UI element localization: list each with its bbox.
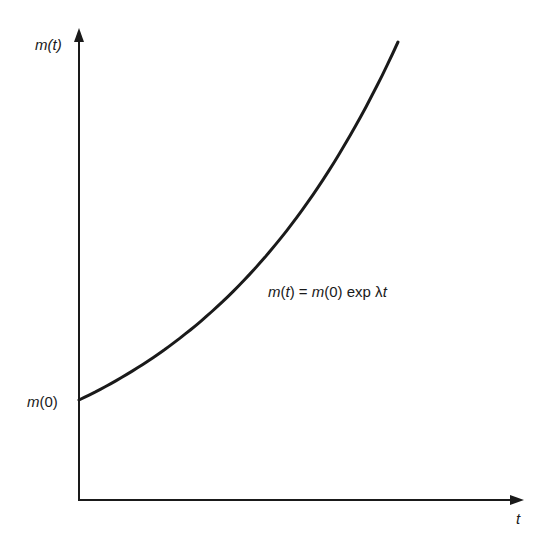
y-axis-label: m(t) [35, 36, 62, 53]
equation-label: m(t) = m(0) exp λt [268, 283, 388, 300]
y-axis-arrowhead-icon [74, 28, 84, 42]
exponential-curve [79, 42, 398, 400]
x-axis-arrowhead-icon [510, 495, 524, 505]
growth-curve [79, 42, 398, 400]
exponential-growth-figure: m(t) t m(0) m(t) = m(0) exp λt [0, 0, 552, 546]
x-axis-label: t [516, 510, 521, 527]
y-intercept-label: m(0) [27, 393, 58, 410]
